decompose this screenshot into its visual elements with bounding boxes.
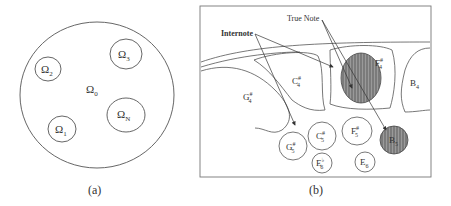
caption-b: (b) bbox=[309, 183, 323, 197]
svg-text:Ω3: Ω3 bbox=[118, 48, 130, 63]
caption-a: (a) bbox=[88, 183, 101, 197]
panel-a: Ω2 Ω3 Ω1 ΩN Ω0 (a) bbox=[20, 22, 174, 197]
svg-text:Ω2: Ω2 bbox=[41, 63, 53, 78]
subdomain-omega-2: Ω2 bbox=[35, 57, 61, 81]
subdomain-omega-1: Ω1 bbox=[48, 116, 76, 142]
figure-canvas: Ω2 Ω3 Ω1 ΩN Ω0 (a) G#4 bbox=[0, 0, 451, 206]
subdomain-omega-n: ΩN bbox=[107, 98, 145, 132]
subdomain-omega-3: Ω3 bbox=[110, 39, 142, 69]
svg-text:Ω1: Ω1 bbox=[55, 123, 67, 138]
true-note-label: True Note bbox=[287, 14, 320, 23]
circle-b5-true-note: B5 bbox=[380, 126, 408, 154]
svg-text:ΩN: ΩN bbox=[117, 108, 130, 123]
internote-label: Internote bbox=[221, 29, 253, 38]
outer-domain-label: Ω0 bbox=[86, 83, 98, 98]
panel-b: G#4 C#4 F#4 B4 G#5 C#5 F#5 B5 E♭6 E6 bbox=[200, 6, 431, 197]
